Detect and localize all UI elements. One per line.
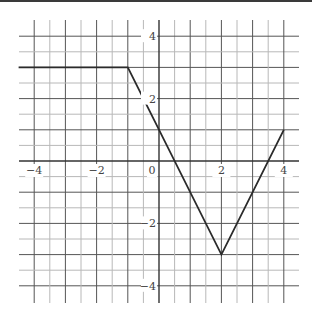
axes xyxy=(19,20,299,303)
x-tick-label: 4 xyxy=(280,164,287,177)
y-tick-label: 4 xyxy=(149,30,156,43)
coordinate-plot: −4−202442−2−4 xyxy=(0,0,312,314)
x-tick-label: −4 xyxy=(26,164,42,177)
y-tick-label: −2 xyxy=(140,217,156,230)
x-tick-label: 0 xyxy=(149,164,156,177)
x-tick-label: −2 xyxy=(88,164,104,177)
y-tick-label: −4 xyxy=(140,280,156,293)
x-tick-label: 2 xyxy=(218,164,225,177)
y-tick-label: 2 xyxy=(149,93,156,106)
